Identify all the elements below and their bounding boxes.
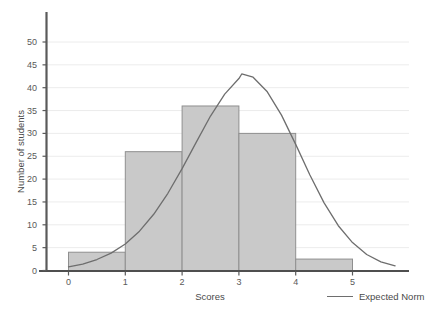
legend-label-expected-norm: Expected Norm	[359, 291, 424, 302]
legend-line-swatch	[327, 296, 353, 297]
histogram-bar	[182, 106, 239, 271]
y-tick-label: 5	[13, 243, 37, 253]
bars-group	[69, 106, 353, 271]
histogram-bar	[125, 152, 182, 271]
histogram-chart: 05101520253035404550 012345 Number of st…	[0, 0, 435, 314]
chart-legend: Expected Norm	[327, 291, 424, 302]
y-axis-title: Number of students	[15, 87, 26, 217]
histogram-bar	[239, 133, 296, 270]
x-tick-label: 3	[229, 277, 249, 287]
plot-area	[0, 0, 435, 314]
y-tick-label: 0	[13, 266, 37, 276]
x-axis-title: Scores	[155, 291, 265, 302]
x-axis-ticks	[69, 272, 353, 276]
histogram-bar	[69, 252, 126, 270]
x-tick-label: 0	[59, 277, 79, 287]
y-tick-label: 45	[13, 60, 37, 70]
x-tick-label: 1	[115, 277, 135, 287]
histogram-bar	[296, 259, 353, 270]
x-tick-label: 4	[286, 277, 306, 287]
y-tick-label: 50	[13, 37, 37, 47]
x-tick-label: 5	[343, 277, 363, 287]
y-tick-label: 10	[13, 220, 37, 230]
x-tick-label: 2	[172, 277, 192, 287]
